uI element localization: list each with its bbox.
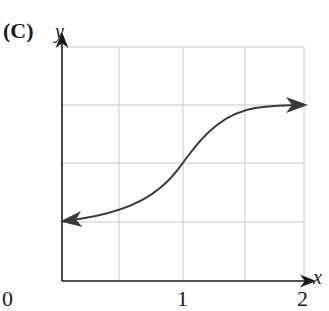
chart-plot	[0, 0, 329, 311]
